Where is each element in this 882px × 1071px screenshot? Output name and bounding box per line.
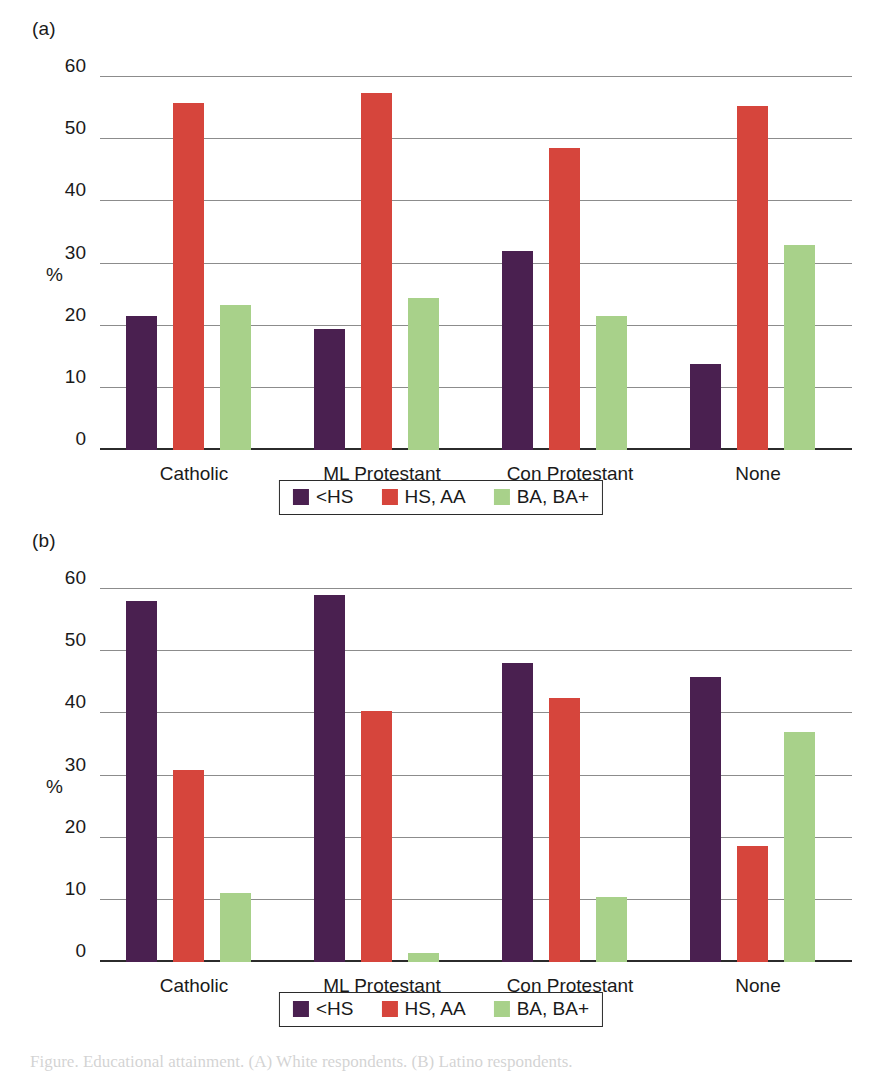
legend-item-label: <HS xyxy=(316,486,354,508)
bar-group-bars xyxy=(100,77,288,450)
bar-group: None xyxy=(664,589,852,962)
legend-item-label: BA, BA+ xyxy=(517,486,589,508)
y-axis-tick-label: 30 xyxy=(65,242,86,264)
y-axis-title-b: % xyxy=(46,776,63,798)
bar xyxy=(737,846,768,962)
legend-item-label: HS, AA xyxy=(404,486,465,508)
x-axis-tick-label: Catholic xyxy=(100,975,288,997)
legend-b: <HSHS, AABA, BA+ xyxy=(279,992,603,1027)
bar xyxy=(361,711,392,962)
legend-swatch-icon xyxy=(381,489,397,505)
legend-swatch-icon xyxy=(293,489,309,505)
bar xyxy=(690,677,721,962)
bar-group: Con Protestant xyxy=(476,589,664,962)
bar-group: ML Protestant xyxy=(288,589,476,962)
bar xyxy=(361,93,392,450)
bar-group-bars xyxy=(288,77,476,450)
bar xyxy=(784,732,815,962)
x-axis-tick-label: Catholic xyxy=(100,463,288,485)
bar xyxy=(220,893,251,962)
legend-item[interactable]: BA, BA+ xyxy=(494,486,589,508)
bar-group: Catholic xyxy=(100,589,288,962)
figure-caption: Figure. Educational attainment. (A) Whit… xyxy=(30,1052,850,1071)
y-axis-tick-label: 30 xyxy=(65,754,86,776)
bar xyxy=(126,316,157,450)
y-axis-tick-label: 0 xyxy=(75,428,86,450)
bar xyxy=(126,601,157,962)
bar xyxy=(408,298,439,450)
bar-group-bars xyxy=(664,77,852,450)
y-axis-tick-label: 60 xyxy=(65,55,86,77)
bar xyxy=(784,245,815,450)
y-axis-tick-label: 60 xyxy=(65,567,86,589)
bar xyxy=(314,595,345,962)
plot-area-b: 0102030405060CatholicML ProtestantCon Pr… xyxy=(100,589,852,962)
bar xyxy=(173,103,204,450)
bar-group-bars xyxy=(664,589,852,962)
chart-panel-a: (a) % 0102030405060CatholicML Protestant… xyxy=(0,18,882,518)
bar xyxy=(690,364,721,450)
legend-swatch-icon xyxy=(381,1001,397,1017)
legend-item[interactable]: <HS xyxy=(293,998,354,1020)
y-axis-tick-label: 20 xyxy=(65,816,86,838)
y-axis-tick-label: 10 xyxy=(65,366,86,388)
bar xyxy=(737,106,768,450)
bar-group: None xyxy=(664,77,852,450)
plot-area-a: 0102030405060CatholicML ProtestantCon Pr… xyxy=(100,77,852,450)
bar xyxy=(408,953,439,962)
bar xyxy=(314,329,345,450)
bar xyxy=(596,897,627,962)
x-axis-tick-label: None xyxy=(664,463,852,485)
legend-item[interactable]: <HS xyxy=(293,486,354,508)
bar-group: Con Protestant xyxy=(476,77,664,450)
bar-group-bars xyxy=(288,589,476,962)
panel-label-b: (b) xyxy=(32,530,56,552)
legend-a: <HSHS, AABA, BA+ xyxy=(279,480,603,515)
legend-item[interactable]: HS, AA xyxy=(381,486,465,508)
panel-label-a: (a) xyxy=(32,18,56,40)
bar xyxy=(220,305,251,450)
legend-item-label: <HS xyxy=(316,998,354,1020)
legend-swatch-icon xyxy=(494,489,510,505)
bar-group: Catholic xyxy=(100,77,288,450)
chart-panel-b: (b) % 0102030405060CatholicML Protestant… xyxy=(0,530,882,1030)
bar-group-bars xyxy=(476,77,664,450)
bar xyxy=(173,770,204,962)
legend-swatch-icon xyxy=(494,1001,510,1017)
legend-item[interactable]: BA, BA+ xyxy=(494,998,589,1020)
y-axis-tick-label: 0 xyxy=(75,940,86,962)
legend-item[interactable]: HS, AA xyxy=(381,998,465,1020)
y-axis-tick-label: 10 xyxy=(65,878,86,900)
y-axis-title-a: % xyxy=(46,264,63,286)
y-axis-tick-label: 50 xyxy=(65,117,86,139)
bar xyxy=(549,698,580,962)
bar-group: ML Protestant xyxy=(288,77,476,450)
y-axis-tick-label: 40 xyxy=(65,691,86,713)
bar-group-bars xyxy=(100,589,288,962)
legend-item-label: HS, AA xyxy=(404,998,465,1020)
x-axis-tick-label: None xyxy=(664,975,852,997)
bar-group-bars xyxy=(476,589,664,962)
bar xyxy=(502,251,533,450)
legend-item-label: BA, BA+ xyxy=(517,998,589,1020)
y-axis-tick-label: 20 xyxy=(65,304,86,326)
y-axis-tick-label: 50 xyxy=(65,629,86,651)
y-axis-tick-label: 40 xyxy=(65,179,86,201)
bar xyxy=(502,663,533,962)
bar xyxy=(596,316,627,450)
legend-swatch-icon xyxy=(293,1001,309,1017)
figure-container: (a) % 0102030405060CatholicML Protestant… xyxy=(0,0,882,1071)
bar xyxy=(549,148,580,450)
